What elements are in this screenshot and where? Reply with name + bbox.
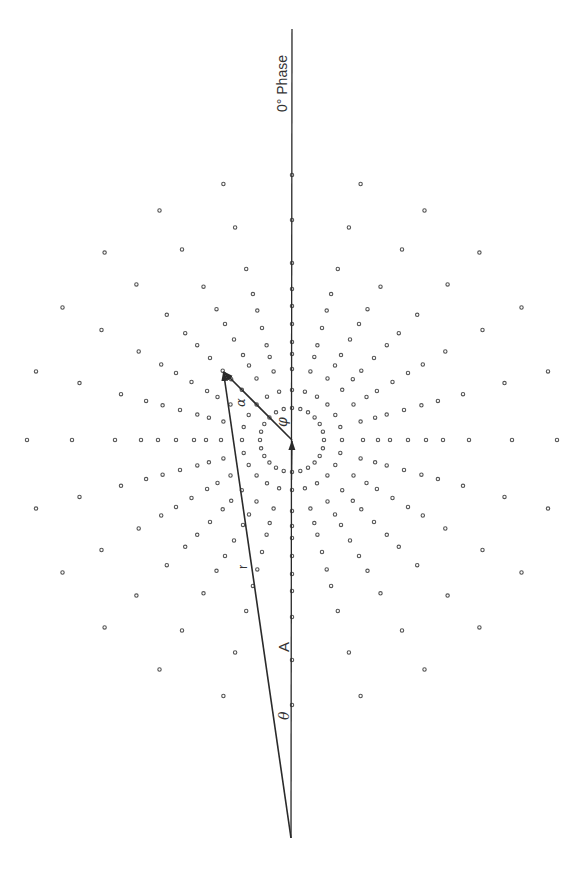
array-element-dot — [277, 487, 280, 490]
array-element-dot — [135, 283, 138, 286]
array-element-dot — [306, 466, 309, 469]
array-element-dot — [339, 353, 342, 356]
array-element-dot — [444, 527, 447, 530]
array-element-dot — [366, 308, 369, 311]
array-element-dot — [205, 487, 208, 490]
array-element-dot — [321, 430, 324, 433]
array-element-dot — [251, 292, 254, 295]
array-element-dot — [222, 420, 225, 423]
array-element-dot — [215, 569, 218, 572]
array-element-dot — [255, 500, 258, 503]
array-element-dot — [309, 507, 312, 510]
array-element-dot — [365, 481, 368, 484]
array-element-dot — [174, 505, 177, 508]
array-element-dot — [259, 430, 262, 433]
array-element-dot — [78, 381, 81, 384]
array-element-dot — [441, 438, 444, 441]
array-element-dot — [372, 520, 375, 523]
array-element-dot — [315, 482, 318, 485]
array-element-dot — [351, 499, 354, 502]
array-element-dot — [461, 393, 464, 396]
array-element-dot — [351, 378, 354, 381]
array-element-dot — [416, 564, 419, 567]
array-element-dot — [423, 668, 426, 671]
array-element-dot — [241, 523, 244, 526]
array-element-dot — [333, 513, 336, 516]
array-element-dot — [144, 399, 147, 402]
array-element-dot — [160, 363, 163, 366]
array-element-dot — [503, 495, 506, 498]
array-element-dot — [359, 420, 362, 423]
array-element-dot — [247, 513, 250, 516]
array-element-dot — [205, 389, 208, 392]
array-element-dot — [375, 487, 378, 490]
array-element-dot — [184, 332, 187, 335]
array-element-dot — [256, 568, 259, 571]
array-element-dot — [360, 508, 363, 511]
array-element-dot — [306, 411, 309, 414]
array-element-dot — [352, 403, 355, 406]
array-element-dot — [360, 369, 363, 372]
array-element-dot — [256, 309, 259, 312]
array-element-dot — [336, 609, 339, 612]
array-element-dot — [190, 496, 193, 499]
array-element-dot — [333, 364, 336, 367]
array-element-dot — [202, 592, 205, 595]
array-element-dot — [272, 370, 275, 373]
array-element-dot — [373, 416, 376, 419]
array-element-dot — [446, 594, 449, 597]
array-element-dot — [385, 344, 388, 347]
array-element-dot — [503, 381, 506, 384]
array-element-dot — [546, 370, 549, 373]
array-element-dot — [379, 285, 382, 288]
array-element-dot — [274, 466, 277, 469]
array-element-dot — [423, 209, 426, 212]
array-element-dot — [326, 403, 329, 406]
array-element-dot — [391, 380, 394, 383]
array-element-dot — [232, 539, 235, 542]
array-element-dot — [161, 473, 164, 476]
array-element-dot — [216, 481, 219, 484]
array-element-dot — [366, 569, 369, 572]
array-element-dot — [165, 564, 168, 567]
array-element-dot — [219, 438, 222, 441]
array-element-dot — [318, 422, 321, 425]
array-element-dot — [334, 413, 337, 416]
array-element-dot — [260, 326, 263, 329]
array-element-dot — [481, 548, 484, 551]
array-element-dot — [347, 651, 350, 654]
array-element-dot — [222, 457, 225, 460]
array-element-dot — [365, 395, 368, 398]
array-element-dot — [196, 533, 199, 536]
array-element-dot — [240, 438, 243, 441]
zero-phase-label: 0° Phase — [274, 55, 290, 112]
array-element-dot — [184, 545, 187, 548]
array-element-dot — [160, 514, 163, 517]
array-element-dot — [340, 438, 343, 441]
array-element-dot — [259, 447, 262, 450]
label-alpha: α — [233, 398, 248, 407]
array-element-dot — [221, 369, 224, 372]
array-element-dot — [215, 308, 218, 311]
array-element-dot — [268, 355, 271, 358]
array-element-dot — [385, 464, 388, 467]
array-element-dot — [555, 438, 558, 441]
array-element-dot — [192, 438, 195, 441]
array-element-dot — [339, 523, 342, 526]
array-element-dot — [359, 457, 362, 460]
array-element-dot — [135, 594, 138, 597]
array-element-dot — [222, 182, 225, 185]
array-element-dot — [336, 267, 339, 270]
array-element-dot — [510, 438, 513, 441]
array-element-dot — [119, 484, 122, 487]
array-element-dot — [196, 413, 199, 416]
array-element-dot — [282, 407, 285, 410]
array-element-dot — [321, 447, 324, 450]
array-element-dot — [391, 496, 394, 499]
array-element-dot — [329, 584, 332, 587]
label-theta: θ — [276, 711, 292, 720]
array-element-dot — [265, 395, 268, 398]
array-element-dot — [245, 267, 248, 270]
array-element-dot — [299, 407, 302, 410]
array-element-dot — [315, 395, 318, 398]
